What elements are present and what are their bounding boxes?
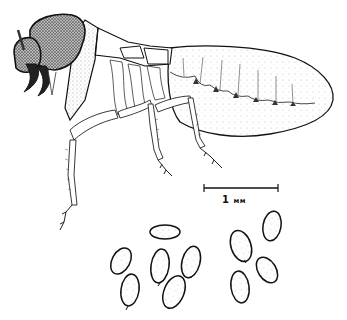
scale-unit: мм [233,197,245,205]
thorax [95,28,172,115]
pellet [150,225,180,239]
termite-illustration [0,0,347,320]
fecal-pellets [106,210,283,312]
scale-value: 1 [222,194,229,205]
pellet [261,210,284,243]
pellet [119,273,141,307]
pellet [229,270,251,304]
scale-bar [204,184,278,192]
pellet [149,248,172,284]
pellet [106,244,135,277]
pellet [227,228,256,265]
scale-label: 1 мм [222,194,246,205]
pellet [252,253,282,286]
pellet [178,244,203,279]
head [14,14,98,120]
